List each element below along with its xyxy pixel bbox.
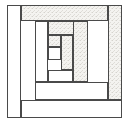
log-outer-right [109,6,122,100]
log-outer-top [22,6,108,21]
quilt-block-figure [0,0,130,123]
log-third-right [62,36,73,70]
center-square [49,48,61,60]
log-second-right [74,22,88,82]
center-top-block [49,36,61,47]
log-second-bottom [36,83,108,100]
log-cabin-block-svg [0,0,130,123]
log-third-bottom [49,71,73,82]
log-outer-left [8,6,21,118]
log-outer-bottom [22,101,122,118]
log-second-left [36,22,48,82]
